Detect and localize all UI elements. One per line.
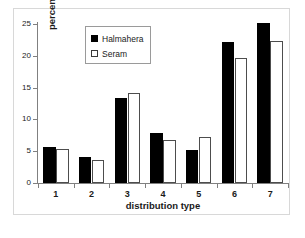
x-tick-label: 1 [41, 189, 71, 200]
x-tick-label: 7 [255, 189, 285, 200]
legend-item-halmahera: Halmahera [91, 31, 150, 46]
x-tick-mark [252, 183, 253, 188]
chart-legend: Halmahera Seram [85, 26, 151, 64]
x-tick-mark [109, 183, 110, 188]
y-tick-label: 5 [0, 146, 31, 156]
bar-seram-7 [270, 41, 283, 183]
bar-seram-2 [92, 160, 105, 183]
legend-item-seram: Seram [91, 46, 150, 61]
bar-halmahera-3 [115, 98, 128, 183]
x-tick-mark [74, 183, 75, 188]
x-tick-label: 4 [148, 189, 178, 200]
bar-halmahera-2 [79, 157, 92, 183]
y-tick-label: 0 [0, 178, 31, 188]
x-tick-mark [217, 183, 218, 188]
x-tick-mark [145, 183, 146, 188]
bar-halmahera-1 [43, 147, 56, 183]
x-tick-mark [181, 183, 182, 188]
legend-swatch-filled-square-icon [91, 35, 98, 42]
y-tick-label: 10 [0, 114, 31, 124]
x-tick-label: 6 [219, 189, 249, 200]
x-tick-mark [288, 183, 289, 188]
legend-swatch-open-square-icon [91, 50, 98, 57]
bar-halmahera-6 [222, 42, 235, 183]
y-tick-label: 15 [0, 83, 31, 93]
y-tick-label: 25 [0, 19, 31, 29]
legend-label: Seram [102, 49, 127, 59]
bar-halmahera-7 [257, 23, 270, 183]
x-axis-line [37, 183, 289, 184]
bar-seram-3 [128, 93, 141, 183]
bar-seram-4 [163, 140, 176, 183]
bar-halmahera-4 [150, 133, 163, 183]
y-tick-label: 20 [0, 51, 31, 61]
chart-figure: 0510152025 1234567 percentages distribut… [0, 0, 305, 238]
x-axis-label: distribution type [38, 200, 288, 211]
x-tick-mark [38, 183, 39, 188]
legend-label: Halmahera [102, 34, 144, 44]
x-tick-label: 5 [184, 189, 214, 200]
x-tick-label: 3 [112, 189, 142, 200]
plot-area [38, 24, 288, 183]
bar-halmahera-5 [186, 150, 199, 183]
bar-seram-6 [235, 58, 248, 183]
bar-seram-1 [56, 149, 69, 183]
bar-seram-5 [199, 137, 212, 183]
y-axis-label: percentages [46, 0, 57, 30]
x-tick-label: 2 [77, 189, 107, 200]
